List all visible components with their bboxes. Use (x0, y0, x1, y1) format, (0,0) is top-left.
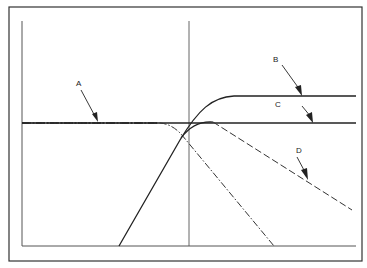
label-b-pointer (282, 65, 302, 96)
label-b: B (273, 55, 278, 64)
label-a: A (76, 79, 82, 88)
curve-d (213, 122, 352, 210)
curve-b (119, 96, 356, 246)
label-d: D (296, 146, 302, 155)
outer-frame (9, 7, 362, 261)
label-c: C (275, 100, 281, 109)
label-c-pointer (302, 106, 313, 123)
filter-response-diagram: A B C D (0, 0, 367, 268)
label-a-pointer (81, 90, 98, 122)
curve-a (22, 123, 274, 246)
